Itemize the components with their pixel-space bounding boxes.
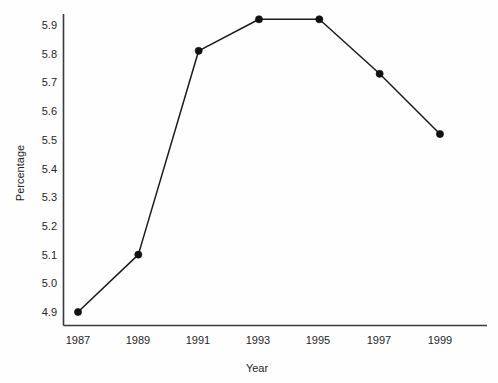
y-tick-label: 5.3	[42, 191, 57, 203]
line-chart: 5.9 5.8 5.7 5.6 5.5 5.4 5.3 5.2 5.1 5.0 …	[0, 0, 498, 383]
y-tick-label: 5.8	[42, 48, 57, 60]
y-tick-label: 5.9	[42, 19, 57, 31]
data-point	[436, 130, 443, 137]
chart-page: 5.9 5.8 5.7 5.6 5.5 5.4 5.3 5.2 5.1 5.0 …	[0, 0, 498, 383]
x-tick-label: 1987	[66, 334, 90, 346]
x-tick-label: 1997	[367, 334, 391, 346]
y-tick-label: 5.1	[42, 249, 57, 261]
x-tick-label: 1991	[186, 334, 210, 346]
y-axis-title: Percentage	[14, 145, 26, 201]
data-point	[195, 47, 202, 54]
y-tick-label: 5.0	[42, 277, 57, 289]
x-axis-title: Year	[246, 362, 269, 374]
y-tick-label: 5.7	[42, 76, 57, 88]
y-tick-label: 4.9	[42, 306, 57, 318]
y-tick-label: 5.4	[42, 163, 57, 175]
y-tick-label: 5.5	[42, 134, 57, 146]
x-tick-label: 1995	[306, 334, 330, 346]
data-point	[316, 16, 323, 23]
data-point	[255, 16, 262, 23]
x-tick-label: 1989	[126, 334, 150, 346]
x-tick-label: 1999	[428, 334, 452, 346]
y-tick-label: 5.2	[42, 220, 57, 232]
data-point	[135, 251, 142, 258]
data-point	[74, 308, 81, 315]
data-point	[376, 70, 383, 77]
x-tick-label: 1993	[246, 334, 270, 346]
y-tick-label: 5.6	[42, 105, 57, 117]
